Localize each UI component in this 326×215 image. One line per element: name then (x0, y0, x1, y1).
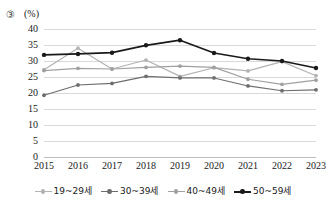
x-axis-tick-labels: 201520162017201820192020202120222023 (44, 160, 316, 176)
data-point (144, 43, 148, 47)
data-point (178, 76, 182, 80)
series-19~29세 (42, 46, 318, 78)
y-tick-label-30: 30 (28, 56, 38, 66)
data-point (110, 67, 114, 71)
x-tick-label-2023: 2023 (306, 160, 326, 172)
y-axis-tick-labels: 0510152025303540 (0, 29, 40, 157)
data-point (76, 52, 80, 56)
data-point (42, 69, 46, 73)
legend-label: 40~49세 (187, 186, 225, 197)
series-layer (44, 29, 316, 157)
data-point (110, 82, 114, 86)
legend-marker-icon (168, 187, 185, 196)
data-point (178, 64, 182, 68)
data-point (280, 89, 284, 93)
data-point (110, 50, 114, 54)
x-tick-label-2015: 2015 (34, 160, 54, 172)
legend-label: 50~59세 (253, 186, 291, 197)
figure-number-marker: ③ (6, 10, 15, 20)
x-tick-label-2016: 2016 (68, 160, 88, 172)
data-point (280, 82, 284, 86)
data-point (76, 46, 80, 50)
legend-item-40~49세[interactable]: 40~49세 (168, 186, 225, 197)
data-point (246, 77, 250, 81)
x-tick-label-2019: 2019 (170, 160, 190, 172)
y-axis-unit-label: (%) (24, 9, 39, 19)
data-point (246, 69, 250, 73)
plot-area (44, 29, 316, 157)
x-tick-label-2018: 2018 (136, 160, 156, 172)
y-tick-label-40: 40 (28, 24, 38, 34)
gridline-0 (44, 157, 316, 158)
chart-legend: 19~29세30~39세40~49세50~59세 (0, 186, 326, 197)
legend-item-30~39세[interactable]: 30~39세 (101, 186, 158, 197)
y-tick-label-10: 10 (28, 120, 38, 130)
data-point (76, 66, 80, 70)
x-tick-label-2021: 2021 (238, 160, 258, 172)
legend-item-19~29세[interactable]: 19~29세 (35, 186, 92, 197)
data-point (246, 57, 250, 61)
legend-marker-icon (35, 187, 52, 196)
data-point (144, 74, 148, 78)
data-point (42, 93, 46, 97)
data-point (144, 58, 148, 62)
series-30~39세 (42, 74, 318, 97)
legend-label: 30~39세 (120, 186, 158, 197)
legend-label: 19~29세 (54, 186, 92, 197)
x-tick-label-2022: 2022 (272, 160, 292, 172)
data-point (178, 38, 182, 42)
legend-marker-icon (234, 187, 251, 196)
data-point (212, 76, 216, 80)
y-tick-label-25: 25 (28, 72, 38, 82)
x-tick-label-2020: 2020 (204, 160, 224, 172)
data-point (314, 66, 318, 70)
x-tick-label-2017: 2017 (102, 160, 122, 172)
y-tick-label-20: 20 (28, 88, 38, 98)
data-point (76, 83, 80, 87)
y-tick-label-15: 15 (28, 104, 38, 114)
y-tick-label-5: 5 (33, 136, 38, 146)
data-point (314, 88, 318, 92)
series-line-19~29세 (44, 48, 316, 76)
data-point (212, 51, 216, 55)
data-point (314, 74, 318, 78)
chart-container: ③ (%) 0510152025303540 20152016201720182… (0, 0, 326, 215)
data-point (314, 78, 318, 82)
legend-marker-icon (101, 187, 118, 196)
data-point (246, 84, 250, 88)
data-point (280, 59, 284, 63)
data-point (42, 53, 46, 57)
legend-item-50~59세[interactable]: 50~59세 (234, 186, 291, 197)
data-point (212, 66, 216, 70)
data-point (144, 66, 148, 70)
y-tick-label-35: 35 (28, 40, 38, 50)
